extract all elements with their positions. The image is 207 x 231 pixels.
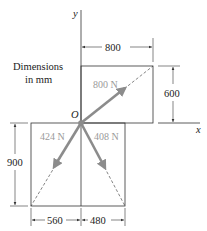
force-label-800: 800 N — [93, 79, 118, 90]
origin-point — [78, 120, 84, 126]
origin-label: O — [71, 109, 79, 120]
dimensions-note-line2: in mm — [25, 74, 52, 85]
force-arrow-424 — [54, 123, 81, 167]
y-axis-label: y — [72, 8, 78, 19]
dim-bottom-left-width: 560 — [47, 215, 63, 226]
dim-bottom-height: 900 — [7, 157, 23, 168]
force-arrow-408 — [81, 123, 105, 168]
dim-top-height: 600 — [164, 88, 180, 99]
dim-bottom-right-width: 480 — [90, 215, 106, 226]
force-label-408: 408 N — [94, 131, 119, 142]
dimensions-note-line1: Dimensions — [13, 61, 63, 72]
force-diagram: y x 800 N 424 N 408 N O Dimensions in mm… — [0, 0, 207, 231]
x-axis-label: x — [195, 124, 201, 135]
force-arrow-800 — [81, 88, 125, 123]
force-label-424: 424 N — [40, 131, 65, 142]
dim-top-width: 800 — [105, 42, 121, 53]
